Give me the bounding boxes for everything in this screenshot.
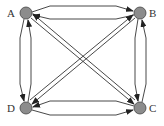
edge-c-to-d bbox=[33, 101, 134, 107]
node-c bbox=[134, 102, 146, 114]
node-b bbox=[134, 7, 146, 19]
edge-c-to-a bbox=[33, 14, 135, 100]
node-label-a: A bbox=[7, 7, 15, 19]
node-d bbox=[20, 102, 32, 114]
edge-d-to-b bbox=[30, 15, 133, 100]
edge-d-to-c bbox=[32, 110, 133, 115]
edge-c-to-b bbox=[142, 20, 146, 102]
node-label-b: B bbox=[149, 7, 156, 19]
edge-b-to-d bbox=[32, 18, 135, 104]
edge-a-to-c bbox=[31, 18, 134, 104]
node-a bbox=[20, 7, 32, 19]
edge-d-to-a bbox=[28, 20, 31, 102]
node-label-d: D bbox=[7, 102, 15, 114]
node-label-c: C bbox=[149, 102, 156, 114]
edge-a-to-b bbox=[32, 6, 133, 12]
graph-diagram: A B C D bbox=[0, 0, 164, 126]
edge-a-to-d bbox=[20, 19, 24, 101]
edge-b-to-a bbox=[33, 15, 134, 19]
edge-b-to-c bbox=[135, 19, 138, 101]
